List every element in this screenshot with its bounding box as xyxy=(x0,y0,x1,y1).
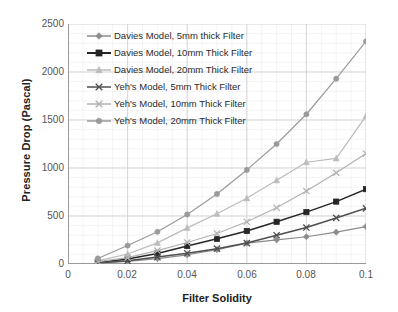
marker-circle xyxy=(96,118,102,124)
marker-circle xyxy=(363,39,366,44)
legend-item-2[interactable]: Davies Model, 20mm Thick Filter xyxy=(86,62,252,77)
marker-circle xyxy=(155,229,160,234)
legend-item-5[interactable]: Yeh's Model, 20mm Thick Filter xyxy=(86,113,252,128)
marker-diamond xyxy=(303,234,309,240)
x-tick-label-002: 0.02 xyxy=(105,270,149,280)
pressure-drop-chart: Pressure Drop (Pascal) Filter Solidity 0… xyxy=(0,0,398,312)
marker-square xyxy=(96,50,102,56)
x-tick-label-0: 0 xyxy=(46,270,90,280)
marker-triangle xyxy=(244,195,250,201)
legend: Davies Model, 5mm thick FilterDavies Mod… xyxy=(86,28,252,128)
legend-marker-triangle-icon xyxy=(86,64,112,76)
x-tick-label-008: 0.08 xyxy=(284,270,328,280)
marker-cross xyxy=(363,151,366,157)
y-tick-label-2500: 2500 xyxy=(24,19,64,29)
marker-square xyxy=(334,199,339,204)
y-tick-label-0: 0 xyxy=(24,259,64,269)
legend-marker-circle-icon xyxy=(86,115,112,127)
marker-square xyxy=(363,187,366,192)
legend-item-0[interactable]: Davies Model, 5mm thick Filter xyxy=(86,28,252,43)
marker-diamond xyxy=(96,32,103,39)
marker-circle xyxy=(304,112,309,117)
marker-diamond xyxy=(333,229,339,235)
legend-label-3: Yeh's Model, 5mm Thick Filter xyxy=(114,81,240,93)
marker-circle xyxy=(185,212,190,217)
marker-triangle xyxy=(154,240,160,246)
legend-item-3[interactable]: Yeh's Model, 5mm Thick Filter xyxy=(86,79,252,94)
legend-marker-diamond-icon xyxy=(86,30,112,42)
marker-circle xyxy=(274,141,279,146)
legend-marker-cross-icon xyxy=(86,98,112,110)
marker-triangle xyxy=(363,113,366,119)
legend-label-0: Davies Model, 5mm thick Filter xyxy=(114,30,244,42)
x-tick-label-01: 0.1 xyxy=(344,270,388,280)
marker-triangle xyxy=(274,177,280,183)
marker-circle xyxy=(95,256,100,261)
y-tick-label-1500: 1500 xyxy=(24,115,64,125)
y-tick-label-2000: 2000 xyxy=(24,67,64,77)
marker-square xyxy=(274,219,279,224)
marker-diamond xyxy=(363,223,366,229)
marker-circle xyxy=(244,167,249,172)
marker-square xyxy=(214,236,219,241)
x-tick-label-006: 0.06 xyxy=(225,270,269,280)
series-2 xyxy=(95,113,366,264)
legend-label-4: Yeh's Model, 10mm Thick Filter xyxy=(114,98,246,110)
marker-circle xyxy=(214,191,219,196)
marker-square xyxy=(244,228,249,233)
legend-marker-square-icon xyxy=(86,47,112,59)
x-tick-label-004: 0.04 xyxy=(165,270,209,280)
y-tick-label-500: 500 xyxy=(24,211,64,221)
legend-marker-cross-icon xyxy=(86,81,112,93)
y-tick-label-1000: 1000 xyxy=(24,163,64,173)
legend-label-5: Yeh's Model, 20mm Thick Filter xyxy=(114,115,246,127)
legend-label-1: Davies Model, 10mm Thick Filter xyxy=(114,47,252,59)
marker-triangle xyxy=(214,210,220,216)
legend-label-2: Davies Model, 20mm Thick Filter xyxy=(114,64,252,76)
series-1 xyxy=(95,187,366,264)
x-axis-title: Filter Solidity xyxy=(68,292,366,304)
marker-circle xyxy=(334,76,339,81)
legend-item-4[interactable]: Yeh's Model, 10mm Thick Filter xyxy=(86,96,252,111)
marker-circle xyxy=(125,243,130,248)
legend-item-1[interactable]: Davies Model, 10mm Thick Filter xyxy=(86,45,252,60)
marker-square xyxy=(304,210,309,215)
